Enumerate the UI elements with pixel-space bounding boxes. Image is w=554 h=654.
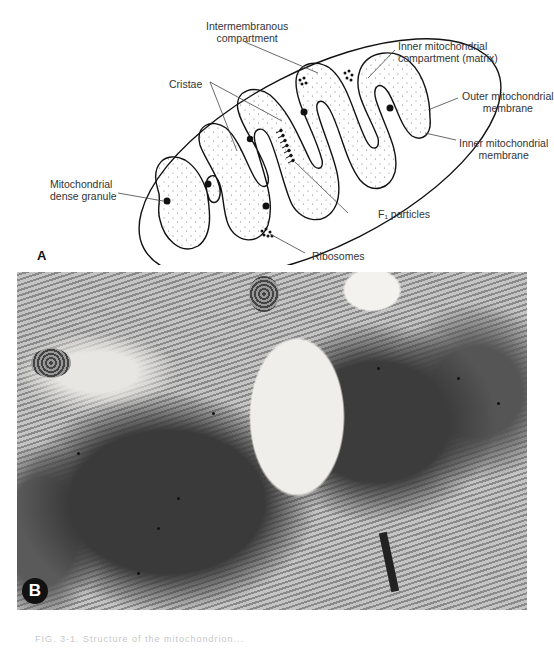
- dense-granule: [377, 367, 380, 370]
- dense-granule: [457, 377, 460, 380]
- dense-granule: [212, 412, 215, 415]
- panel-b-micrograph: B: [17, 272, 527, 610]
- dark-streak: [379, 532, 399, 592]
- dense-granule: [177, 497, 180, 500]
- small-mitochondrion: [249, 276, 279, 312]
- dense-granule: [137, 572, 140, 575]
- label-ribosomes: Ribosomes: [312, 250, 365, 262]
- panel-letter-a: A: [37, 248, 46, 263]
- figure-caption: FIG. 3-1. Structure of the mitochondrion…: [35, 634, 244, 644]
- label-cristae: Cristae: [169, 78, 202, 90]
- label-inner-membrane: Inner mitochondrial membrane: [459, 137, 548, 161]
- label-intermembranous-compartment: Intermembranous compartment: [206, 20, 288, 44]
- label-outer-membrane: Outer mitochondrial membrane: [462, 90, 554, 114]
- small-mitochondrion: [31, 348, 71, 378]
- label-f1-particles: F₁ particles: [378, 208, 430, 220]
- panel-letter-b: B: [22, 578, 48, 604]
- panel-a-diagram: Intermembranous compartment Inner mitoch…: [0, 0, 545, 265]
- dense-granule: [77, 452, 80, 455]
- dense-granule: [157, 527, 160, 530]
- label-dense-granule: Mitochondrial dense granule: [50, 178, 117, 202]
- dense-granule: [497, 402, 500, 405]
- label-inner-compartment-matrix: Inner mitochondrial compartment (matrix): [398, 40, 498, 64]
